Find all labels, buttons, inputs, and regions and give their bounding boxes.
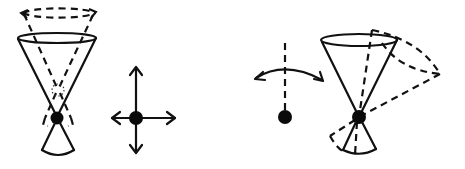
cone-top-ellipse <box>18 33 96 43</box>
cone-side-left <box>322 42 359 117</box>
dashed-rotation-ellipse <box>23 8 95 13</box>
dashed-cone-left <box>24 14 58 90</box>
pivot-dot <box>51 112 64 125</box>
pivot-dot <box>352 110 366 124</box>
tilted-cone-side-b <box>359 74 440 117</box>
lower-cone-left <box>42 123 55 150</box>
dashed-rotation-ellipse-lower <box>23 13 95 18</box>
dashed-lower-left-foot <box>43 118 48 126</box>
pivot-dot <box>278 110 292 124</box>
diagram-svg <box>0 0 465 169</box>
diagram-canvas <box>0 0 465 169</box>
lower-cone-base <box>343 149 376 154</box>
tilted-cone-top-inner <box>382 43 440 74</box>
figure-cone-precession <box>18 8 96 155</box>
lower-cone-base <box>42 150 74 155</box>
lower-cone-left <box>343 122 356 150</box>
figure-translation-cross <box>112 67 175 153</box>
pivot-dot <box>129 111 143 125</box>
tilted-lower-side-b <box>355 122 357 155</box>
lower-cone-right <box>362 122 376 149</box>
dashed-lower-right-foot <box>68 118 73 126</box>
tilted-cone-top-outer <box>372 30 440 74</box>
cone-top-ellipse <box>321 34 397 46</box>
figure-pendulum-swing <box>255 43 323 124</box>
figure-cone-tilt <box>321 30 440 155</box>
swing-arc <box>256 69 322 80</box>
previous-pivot-circle <box>52 84 64 96</box>
lower-cone-right <box>60 123 74 150</box>
